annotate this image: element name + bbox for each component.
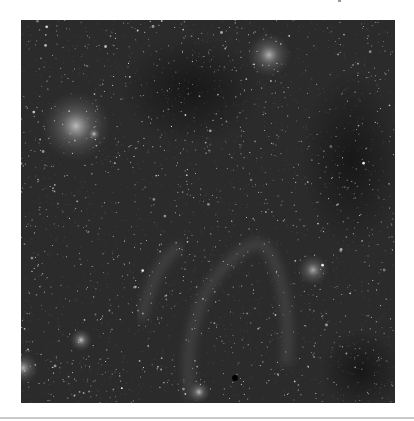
top-edge-artifact <box>338 0 341 2</box>
galaxy-right <box>297 254 329 286</box>
page <box>0 0 414 421</box>
bright-star-lower-left <box>70 329 92 351</box>
dark-spot <box>232 375 238 381</box>
bright-nebula-upper-left <box>41 91 111 161</box>
dark-lane-upper-center <box>121 35 261 145</box>
star-left-mid <box>88 128 101 141</box>
sky-survey-image <box>21 20 395 403</box>
separator-line <box>0 417 414 419</box>
dark-spot-artifact <box>232 375 238 381</box>
bright-star-bottom <box>188 381 210 403</box>
star-field-graphic <box>21 20 395 403</box>
nebula-upper-right <box>247 33 292 78</box>
